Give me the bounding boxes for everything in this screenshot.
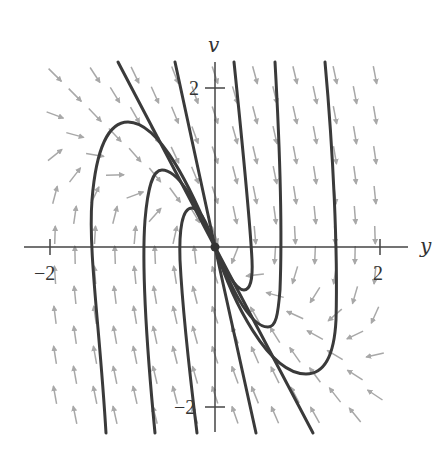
field-arrow [151, 87, 158, 103]
field-arrow [349, 408, 360, 422]
field-arrow [293, 106, 297, 124]
field-arrow [89, 109, 101, 122]
field-arrow [155, 246, 156, 264]
equilibrium-point [211, 243, 220, 252]
field-arrow [371, 307, 378, 323]
field-arrow [293, 146, 296, 164]
field-arrow [114, 286, 116, 304]
field-arrow [329, 388, 340, 402]
axes: y v −2 2 2 −2 [24, 33, 432, 432]
field-arrow [366, 353, 384, 357]
field-arrow [274, 206, 276, 224]
field-arrow [251, 347, 258, 363]
field-arrow [233, 206, 237, 224]
field-arrow [252, 387, 259, 404]
field-arrow [154, 286, 157, 304]
field-arrow [253, 146, 257, 163]
field-arrow [173, 346, 177, 363]
field-arrow [270, 327, 280, 342]
field-arrow [93, 386, 97, 404]
field-arrow [133, 386, 137, 404]
tick-label-y-neg2: −2 [34, 262, 55, 284]
field-arrow [314, 166, 317, 184]
field-arrow [373, 66, 376, 84]
field-arrow [113, 406, 117, 424]
field-arrow [49, 69, 62, 82]
field-arrow [54, 346, 57, 364]
field-arrow [106, 175, 124, 176]
field-arrow [271, 407, 278, 424]
field-arrow [113, 366, 117, 384]
field-arrow [374, 106, 377, 124]
field-arrow [131, 67, 139, 83]
field-arrow [287, 311, 303, 318]
field-arrow [290, 348, 300, 363]
field-arrow [134, 226, 136, 244]
field-arrow [334, 146, 337, 164]
field-arrow [115, 246, 116, 264]
field-arrow [292, 266, 297, 283]
field-arrow [232, 247, 239, 264]
field-arrow [232, 367, 238, 384]
field-arrow [374, 146, 377, 164]
field-arrow [314, 206, 316, 224]
field-arrow [353, 286, 358, 303]
tick-label-y-2: 2 [373, 262, 383, 284]
field-arrow [173, 306, 177, 324]
field-arrow [232, 407, 238, 424]
field-arrow [131, 107, 140, 123]
field-arrow [347, 331, 363, 339]
field-arrow [193, 326, 198, 343]
trajectory-left-outer [91, 122, 215, 433]
field-arrow [333, 106, 336, 124]
field-arrow [133, 346, 137, 364]
field-arrow [193, 286, 197, 303]
v-axis-label: v [208, 33, 220, 57]
field-arrow [253, 66, 258, 83]
field-arrow [293, 66, 297, 83]
trajectory-right-inner [215, 62, 252, 290]
field-arrow [113, 206, 117, 223]
field-arrow [174, 266, 177, 284]
field-arrow [73, 406, 77, 424]
field-arrow [368, 390, 383, 400]
field-arrow [134, 306, 137, 324]
field-arrow [74, 326, 77, 344]
field-arrow [70, 168, 81, 182]
field-arrow [274, 246, 275, 264]
field-arrow [273, 166, 277, 184]
tick-label-v-2: 2 [189, 77, 199, 99]
field-arrow [95, 226, 96, 244]
field-arrow [354, 126, 357, 144]
field-arrow [74, 286, 76, 304]
field-arrow [170, 188, 181, 203]
field-arrow [90, 68, 100, 83]
field-arrow [310, 287, 320, 302]
field-arrow [233, 126, 238, 143]
field-arrow [374, 186, 376, 204]
field-arrow [54, 306, 56, 324]
field-arrow [47, 112, 64, 118]
field-arrow [93, 346, 96, 364]
field-arrow [253, 186, 257, 204]
field-arrow [53, 386, 56, 404]
field-arrow [73, 366, 76, 384]
field-arrow [313, 126, 316, 144]
field-arrow [353, 86, 356, 104]
field-arrow [246, 274, 264, 276]
field-arrow [311, 407, 320, 423]
field-arrow [173, 226, 177, 244]
field-arrow [110, 87, 119, 102]
field-arrow [134, 266, 136, 284]
field-arrow [347, 370, 362, 380]
field-arrow [307, 331, 323, 340]
field-arrow [354, 166, 356, 184]
field-arrow [55, 226, 56, 244]
field-arrow [253, 106, 258, 123]
field-arrow [294, 186, 297, 204]
field-arrow [153, 366, 157, 384]
field-arrow [354, 206, 355, 224]
field-arrow [66, 133, 83, 138]
field-arrow [48, 149, 62, 160]
field-arrow [315, 246, 316, 264]
